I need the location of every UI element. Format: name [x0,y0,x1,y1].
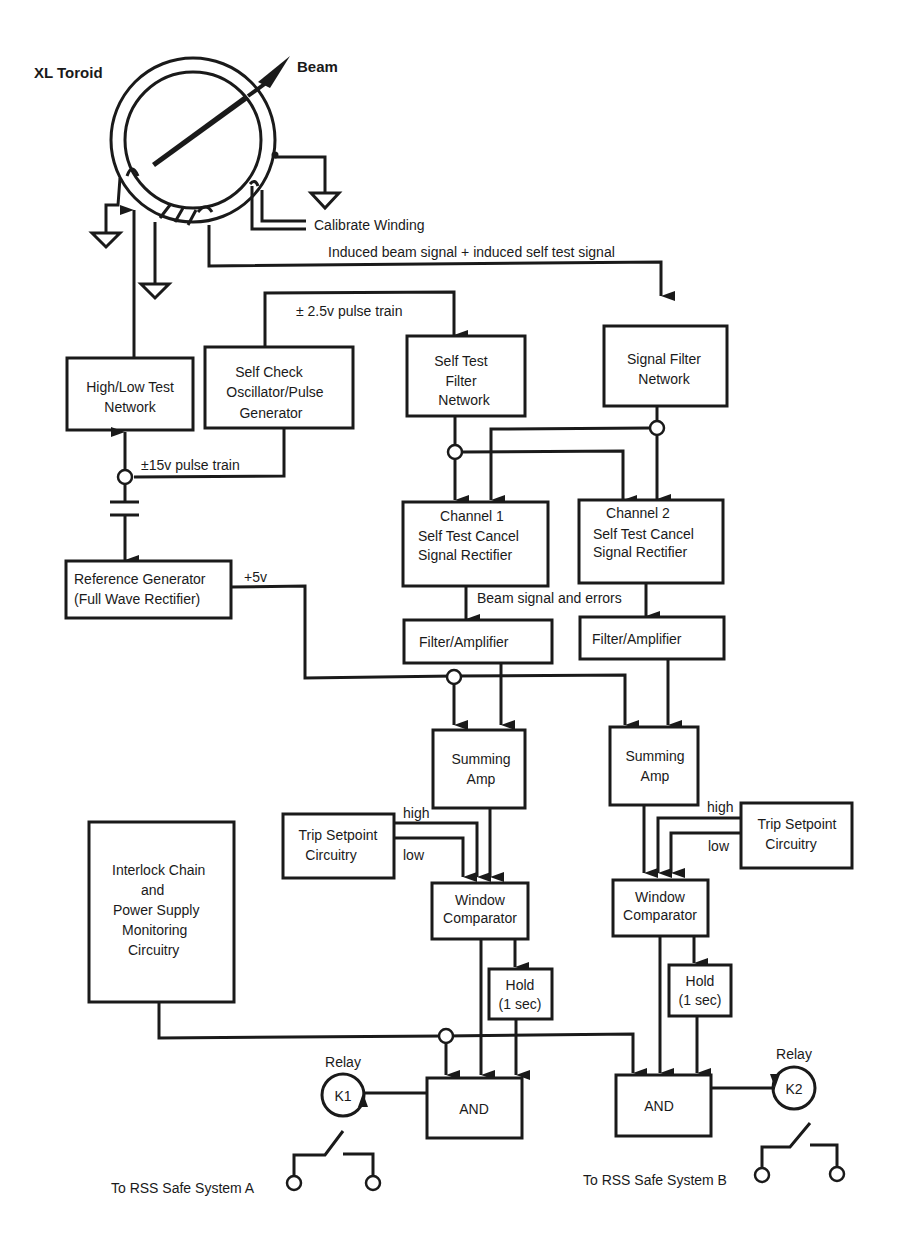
calibrate-winding-leads [252,186,306,229]
svg-text:Self Test Cancel: Self Test Cancel [593,526,694,542]
svg-text:Network: Network [638,371,690,387]
svg-text:Summing: Summing [451,751,510,767]
svg-text:Interlock Chain: Interlock Chain [112,862,205,878]
svg-text:Power Supply: Power Supply [113,902,199,918]
trip-1-high-label: high [403,805,429,821]
svg-text:Self Test Cancel: Self Test Cancel [418,528,519,544]
svg-text:Oscillator/Pulse: Oscillator/Pulse [226,384,323,400]
svg-text:High/Low Test: High/Low Test [86,379,174,395]
window-comparator-1-block: Window Comparator [432,883,528,939]
svg-text:Summing: Summing [625,748,684,764]
pulse-2-5v-label: ± 2.5v pulse train [296,303,403,319]
ground-icon [92,233,120,247]
svg-text:Filter/Amplifier: Filter/Amplifier [419,634,509,650]
beam-arrow-shaft [248,83,266,96]
xl-toroid: XL Toroid Beam [34,56,338,225]
high-low-test-network-block: High/Low Test Network [67,358,193,430]
svg-text:(1 sec): (1 sec) [499,996,542,1012]
svg-text:Window: Window [635,889,686,905]
interlock-wire [159,1002,633,1073]
beam-toroid-block-diagram: XL Toroid Beam Calibrate Winding Induced… [0,0,901,1247]
trip-2-low-wire [671,833,741,873]
svg-text:Trip Setpoint: Trip Setpoint [299,827,378,843]
plus-5v-label: +5v [244,569,267,585]
induced-signal-wire [209,225,661,296]
svg-text:Generator: Generator [239,405,302,421]
window-comparator-2-block: Window Comparator [613,880,708,936]
signal-filter-to-ch1-wire [491,428,650,500]
reference-generator-block: Reference Generator (Full Wave Rectifier… [66,561,231,618]
junction-node [447,670,461,684]
trip-2-low-label: low [708,838,730,854]
svg-text:Hold: Hold [506,977,535,993]
beam-label: Beam [297,58,338,75]
relay-k1-switch-icon [287,1131,380,1190]
self-test-filter-network-block: Self Test Filter Network [407,336,525,416]
ground-icon [141,284,169,298]
channel-2-rectifier-block: Channel 2 Self Test Cancel Signal Rectif… [579,500,723,583]
svg-text:AND: AND [459,1101,489,1117]
calibrate-winding-label: Calibrate Winding [314,217,425,233]
relay-k2-title: Relay [776,1046,812,1062]
svg-text:Circuitry: Circuitry [305,847,356,863]
svg-text:Network: Network [104,399,156,415]
svg-text:Circuitry: Circuitry [128,942,179,958]
junction-node [650,421,664,435]
beam-rod [152,95,249,167]
trip-1-low-label: low [403,847,425,863]
and-gate-2-block: AND [616,1075,711,1136]
and-gate-1-block: AND [427,1078,522,1138]
signal-filter-network-block: Signal Filter Network [604,326,727,406]
self-test-to-ch2-wire [462,451,623,500]
summing-amp-2-block: Summing Amp [610,727,698,805]
svg-text:Signal Rectifier: Signal Rectifier [418,547,512,563]
trip-setpoint-1-block: Trip Setpoint Circuitry [283,814,394,878]
svg-text:Self Test: Self Test [434,353,488,369]
svg-text:Reference Generator: Reference Generator [74,571,206,587]
hold-2-block: Hold (1 sec) [669,965,731,1016]
beam-errors-label: Beam signal and errors [477,590,622,606]
junction-node [439,1029,453,1043]
svg-text:Comparator: Comparator [443,910,517,926]
junction-node [448,445,462,459]
svg-text:Filter: Filter [445,373,476,389]
channel-1-rectifier-block: Channel 1 Self Test Cancel Signal Rectif… [403,502,548,586]
svg-text:Comparator: Comparator [623,907,697,923]
svg-text:Amp: Amp [467,771,496,787]
svg-text:Monitoring: Monitoring [122,922,187,938]
filter-amplifier-1-block: Filter/Amplifier [404,620,552,663]
relay-k1-id: K1 [334,1088,351,1104]
self-test-winding-loop [198,207,212,212]
trip-2-high-label: high [707,799,733,815]
induced-signal-label: Induced beam signal + induced self test … [328,244,615,260]
svg-text:Channel 2: Channel 2 [606,505,670,521]
svg-text:Signal Rectifier: Signal Rectifier [593,544,687,560]
junction-node [118,470,132,484]
svg-text:Hold: Hold [686,973,715,989]
filter-amplifier-2-block: Filter/Amplifier [580,617,724,659]
svg-text:Amp: Amp [641,768,670,784]
toroid-label: XL Toroid [34,64,103,81]
svg-text:Filter/Amplifier: Filter/Amplifier [592,631,682,647]
pulse-15v-label: ±15v pulse train [141,457,240,473]
summing-amp-1-block: Summing Amp [433,730,525,808]
hold-1-block: Hold (1 sec) [489,969,552,1019]
ground-icon [311,193,339,208]
relay-k2-id: K2 [785,1081,802,1097]
toroid-outer-ring [111,58,275,222]
svg-text:Circuitry: Circuitry [765,836,816,852]
svg-text:AND: AND [644,1098,674,1114]
svg-text:(Full Wave Rectifier): (Full Wave Rectifier) [74,591,200,607]
svg-text:Signal Filter: Signal Filter [627,351,701,367]
svg-text:Channel 1: Channel 1 [440,508,504,524]
interlock-power-monitor-block: Interlock Chain and Power Supply Monitor… [89,822,234,1002]
trip-setpoint-2-block: Trip Setpoint Circuitry [741,803,852,868]
relay-k1-destination: To RSS Safe System A [111,1180,255,1196]
svg-text:Network: Network [438,392,490,408]
svg-text:Self Check: Self Check [235,364,304,380]
self-check-oscillator-block: Self Check Oscillator/Pulse Generator [205,347,353,428]
calibrate-winding-loop [250,181,258,186]
relay-k1-title: Relay [325,1054,361,1070]
svg-text:and: and [141,882,164,898]
svg-text:Trip Setpoint: Trip Setpoint [758,816,837,832]
